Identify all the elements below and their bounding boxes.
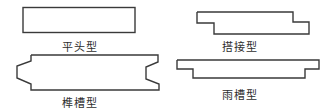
rain-groove-profile-shape bbox=[177, 60, 319, 78]
rain-groove-type-label: 雨槽型 bbox=[222, 86, 258, 102]
lap-profile-shape bbox=[197, 12, 309, 34]
tongue-groove-profile-shape bbox=[17, 55, 159, 90]
joint-profiles-diagram bbox=[0, 0, 333, 110]
flat-profile-shape bbox=[23, 8, 135, 33]
tongue-groove-type-label: 榫槽型 bbox=[62, 94, 98, 110]
flat-type-label: 平头型 bbox=[62, 38, 98, 54]
lap-type-label: 搭接型 bbox=[222, 38, 258, 54]
